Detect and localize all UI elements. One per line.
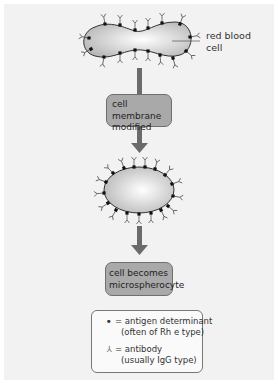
legend-antigen: • = antigen determinant (often of Rh e t…: [98, 316, 198, 340]
step-box-membrane-modified: cell membrane modified: [106, 94, 172, 127]
step-box-microspherocyte: cell becomes microspherocyte: [105, 262, 173, 296]
legend-antigen-line1: = antigen determinant: [115, 316, 212, 327]
cell-label-line1: red blood: [206, 30, 251, 42]
legend-antibody-line1: = antibody: [115, 344, 162, 355]
legend-antigen-line2: (often of Rh e type): [121, 327, 204, 338]
antigen-dot-icon: •: [98, 316, 112, 327]
spherocyte-cell: [94, 157, 183, 224]
step2-line2: microspherocyte: [109, 280, 169, 292]
legend-antibody-line2: (usually IgG type): [121, 355, 197, 366]
connector-line: [137, 68, 142, 94]
step1-line1: cell membrane: [112, 99, 166, 122]
cell-label-line2: cell: [206, 42, 251, 54]
antibody-y-icon: ⅄: [98, 344, 112, 355]
arrow-down-2: [131, 226, 148, 255]
step2-line1: cell becomes: [109, 268, 169, 280]
legend-box: • = antigen determinant (often of Rh e t…: [91, 310, 203, 373]
red-blood-cell-label: red blood cell: [206, 30, 251, 54]
legend-antibody: ⅄ = antibody (usually IgG type): [98, 344, 198, 368]
step1-line2: modified: [112, 122, 166, 134]
